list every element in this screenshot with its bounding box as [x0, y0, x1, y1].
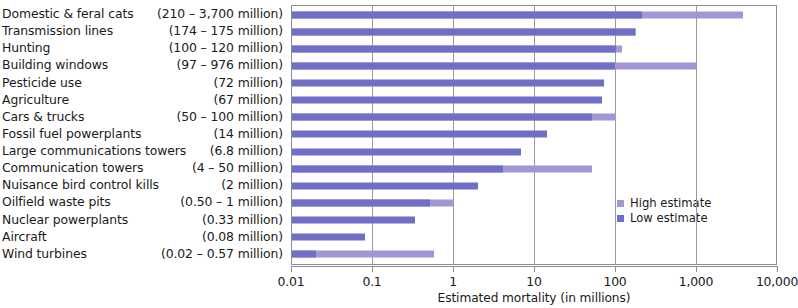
category-range-value: (14 million): [214, 125, 286, 142]
category-label: Nuisance bird control kills(2 million): [0, 176, 286, 193]
x-axis-tick: [534, 266, 535, 272]
category-range-value: (0.02 – 0.57 million): [161, 245, 286, 262]
bar-row: [292, 246, 778, 263]
bar-low-estimate: [292, 45, 616, 52]
bar-row: [292, 109, 778, 126]
bar-row: [292, 126, 778, 143]
category-label-column: Domestic & feral cats(210 – 3,700 millio…: [0, 5, 288, 265]
x-axis-tick: [372, 266, 373, 272]
category-name: Fossil fuel powerplants: [0, 125, 141, 142]
category-name: Agriculture: [0, 91, 69, 108]
category-label: Cars & trucks(50 – 100 million): [0, 108, 286, 125]
category-range-value: (72 million): [214, 74, 286, 91]
bar-low-estimate: [292, 217, 415, 224]
x-axis-tick: [777, 266, 778, 272]
category-name: Transmission lines: [0, 22, 113, 39]
bar-row: [292, 212, 778, 229]
category-label: Large communications towers(6.8 million): [0, 142, 286, 159]
category-name: Aircraft: [0, 228, 46, 245]
category-name: Communication towers: [0, 159, 143, 176]
bar-low-estimate: [292, 182, 478, 189]
x-axis-tick: [291, 266, 292, 272]
category-label: Agriculture(67 million): [0, 91, 286, 108]
category-name: Wind turbines: [0, 245, 87, 262]
category-name: Hunting: [0, 39, 50, 56]
bar-row: [292, 23, 778, 40]
x-axis-tick-label: 100: [603, 274, 626, 289]
bar-row: [292, 6, 778, 23]
bar-low-estimate: [292, 234, 365, 241]
bar-low-estimate: [292, 251, 316, 258]
category-range-value: (67 million): [214, 91, 286, 108]
bar-low-estimate: [292, 148, 521, 155]
category-range-value: (97 – 976 million): [176, 56, 286, 73]
bar-row: [292, 92, 778, 109]
category-label: Transmission lines(174 – 175 million): [0, 22, 286, 39]
category-label: Pesticide use(72 million): [0, 74, 286, 91]
x-axis-tick-label: 0.1: [362, 274, 381, 289]
x-axis-tick: [453, 266, 454, 272]
category-name: Nuisance bird control kills: [0, 176, 159, 193]
category-range-value: (6.8 million): [210, 142, 286, 159]
bar-low-estimate: [292, 97, 602, 104]
bar-low-estimate: [292, 199, 430, 206]
plot-area: High estimateLow estimate: [291, 5, 777, 265]
bar-row: [292, 75, 778, 92]
x-axis-title: Estimated mortality (in millions): [291, 291, 777, 305]
category-range-value: (0.50 – 1 million): [180, 193, 286, 210]
category-label: Oilfield waste pits(0.50 – 1 million): [0, 193, 286, 210]
category-name: Pesticide use: [0, 74, 82, 91]
bar-low-estimate: [292, 165, 503, 172]
category-label: Communication towers(4 – 50 million): [0, 159, 286, 176]
category-name: Large communications towers: [0, 142, 186, 159]
bar-row: [292, 143, 778, 160]
category-label: Domestic & feral cats(210 – 3,700 millio…: [0, 5, 286, 22]
bar-row: [292, 194, 778, 211]
category-label: Building windows(97 – 976 million): [0, 56, 286, 73]
bar-low-estimate: [292, 62, 615, 69]
category-range-value: (0.08 million): [202, 228, 286, 245]
category-name: Oilfield waste pits: [0, 193, 111, 210]
bar-low-estimate: [292, 28, 635, 35]
bar-low-estimate: [292, 80, 604, 87]
bar-row: [292, 177, 778, 194]
category-range-value: (2 million): [221, 176, 286, 193]
category-label: Nuclear powerplants(0.33 million): [0, 211, 286, 228]
category-label: Wind turbines(0.02 – 0.57 million): [0, 245, 286, 262]
bar-row: [292, 57, 778, 74]
category-range-value: (50 – 100 million): [176, 108, 286, 125]
category-range-value: (174 – 175 million): [169, 22, 286, 39]
x-axis-tick-label: 10: [526, 274, 541, 289]
x-axis-tick-label: 0.01: [278, 274, 305, 289]
category-label: Fossil fuel powerplants(14 million): [0, 125, 286, 142]
category-name: Building windows: [0, 56, 108, 73]
x-axis-tick-label: 10,000: [756, 274, 798, 289]
bar-row: [292, 160, 778, 177]
category-range-value: (4 – 50 million): [192, 159, 286, 176]
category-range-value: (210 – 3,700 million): [157, 5, 286, 22]
bar-low-estimate: [292, 131, 547, 138]
category-name: Nuclear powerplants: [0, 211, 128, 228]
bar-row: [292, 40, 778, 57]
x-axis-tick: [615, 266, 616, 272]
bar-row: [292, 229, 778, 246]
x-axis-tick-label: 1: [449, 274, 457, 289]
category-range-value: (100 – 120 million): [169, 39, 286, 56]
category-name: Domestic & feral cats: [0, 5, 134, 22]
bar-low-estimate: [292, 11, 642, 18]
x-axis-tick: [696, 266, 697, 272]
category-range-value: (0.33 million): [202, 211, 286, 228]
x-axis-tick-label: 1,000: [679, 274, 713, 289]
category-label: Aircraft(0.08 million): [0, 228, 286, 245]
category-name: Cars & trucks: [0, 108, 84, 125]
category-label: Hunting(100 – 120 million): [0, 39, 286, 56]
bar-low-estimate: [292, 114, 592, 121]
